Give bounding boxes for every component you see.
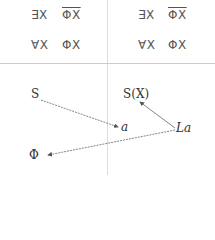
- arrow-la-to-sx: [140, 102, 175, 128]
- node-a: a: [121, 120, 128, 134]
- arrow-s-to-a: [41, 100, 118, 127]
- node-s: S: [31, 87, 39, 101]
- node-s-of-x: S(X): [123, 87, 149, 101]
- node-phi: Φ: [29, 148, 39, 162]
- arrow-la-to-phi: [48, 130, 175, 155]
- node-la: La: [176, 121, 191, 135]
